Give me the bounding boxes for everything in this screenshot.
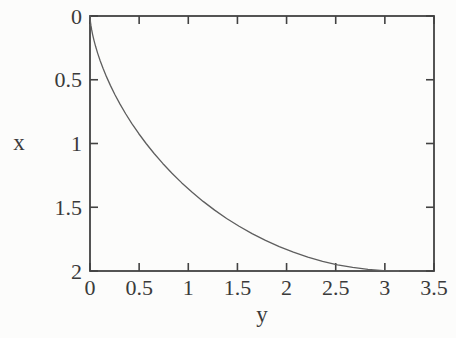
cycloid-curve-figure: 00.511.522.533.500.511.52 x y [0, 0, 456, 338]
horizontal-axis-label: y [256, 302, 268, 327]
plot-canvas: 00.511.522.533.500.511.52 x y [0, 0, 456, 338]
y-tick-label: 0 [71, 4, 82, 29]
plot-border [90, 16, 434, 271]
y-tick-label: 1 [71, 131, 82, 156]
x-tick-label: 3 [379, 275, 390, 300]
y-tick-label: 2 [71, 259, 82, 284]
vertical-axis-label: x [13, 130, 25, 155]
x-tick-label: 0 [85, 275, 96, 300]
x-tick-label: 3.5 [420, 275, 448, 300]
x-tick-label: 0.5 [125, 275, 153, 300]
chart-layer: 00.511.522.533.500.511.52 [55, 4, 448, 301]
x-tick-label: 2.5 [322, 275, 350, 300]
y-tick-label: 1.5 [55, 195, 83, 220]
x-tick-label: 1 [183, 275, 194, 300]
x-tick-label: 2 [281, 275, 292, 300]
y-tick-label: 0.5 [55, 67, 83, 92]
cycloid-curve [90, 16, 399, 271]
x-tick-label: 1.5 [224, 275, 252, 300]
